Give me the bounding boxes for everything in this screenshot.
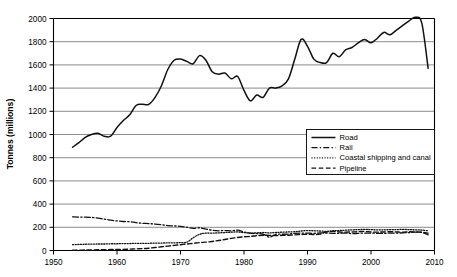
x-tick-label: 2000 xyxy=(362,258,381,267)
gridlines-group xyxy=(54,19,435,228)
y-tick-label: 2000 xyxy=(28,15,47,24)
chart-container: 0200400600800100012001400160018002000 19… xyxy=(0,0,457,277)
x-axis-ticks: 1950196019701980199020002010 xyxy=(44,251,444,267)
y-tick-label: 200 xyxy=(33,223,47,232)
x-tick-label: 1960 xyxy=(108,258,127,267)
y-tick-label: 400 xyxy=(33,200,47,209)
chart-legend: RoadRailCoastal shipping and canalPipeli… xyxy=(307,130,435,175)
y-axis-title: Tonnes (millions) xyxy=(5,99,15,170)
x-tick-label: 1950 xyxy=(44,258,63,267)
legend-label-rail: Rail xyxy=(340,143,353,152)
y-axis-ticks: 0200400600800100012001400160018002000 xyxy=(28,15,53,256)
y-tick-label: 1600 xyxy=(28,61,47,70)
legend-label-road: Road xyxy=(340,133,358,142)
series-line-pipeline xyxy=(73,231,429,250)
legend-label-pipeline: Pipeline xyxy=(340,164,367,173)
line-chart: 0200400600800100012001400160018002000 19… xyxy=(0,0,457,277)
y-tick-label: 1200 xyxy=(28,107,47,116)
legend-background xyxy=(307,130,435,175)
y-tick-label: 800 xyxy=(33,154,47,163)
y-tick-label: 0 xyxy=(42,247,47,256)
x-tick-label: 1990 xyxy=(298,258,317,267)
y-tick-label: 1000 xyxy=(28,131,47,140)
legend-label-coastal-shipping-and-canal: Coastal shipping and canal xyxy=(340,153,432,162)
x-tick-label: 2010 xyxy=(425,258,444,267)
y-tick-label: 1400 xyxy=(28,84,47,93)
series-line-road xyxy=(73,17,429,147)
y-tick-label: 1800 xyxy=(28,38,47,47)
x-tick-label: 1980 xyxy=(235,258,254,267)
y-tick-label: 600 xyxy=(33,177,47,186)
x-tick-label: 1970 xyxy=(171,258,190,267)
